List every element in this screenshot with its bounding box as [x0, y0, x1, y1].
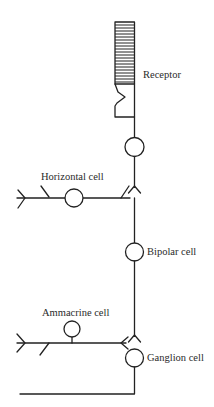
ganglion-cell-label: Ganglion cell — [147, 353, 204, 364]
horizontal-cell-label: Horizontal cell — [41, 172, 104, 183]
receptor-synapse-fork — [129, 186, 141, 193]
receptor-label: Receptor — [143, 70, 181, 81]
ganglion-cell-body — [126, 349, 144, 367]
amacrine-cell — [17, 321, 128, 355]
horizontal-dendrite — [41, 186, 49, 197]
receptor-discs — [115, 25, 135, 82]
horizontal-right-terminal — [121, 186, 129, 198]
diagram-canvas — [0, 0, 214, 407]
horizontal-cell-body — [65, 189, 83, 207]
amacrine-dendrite — [40, 343, 49, 355]
bipolar-cell-label: Bipolar cell — [147, 247, 196, 258]
bipolar-cell-body — [126, 243, 144, 261]
amacrine-cell-label: Ammacrine cell — [42, 308, 109, 319]
receptor-outer-segment — [115, 22, 135, 84]
horizontal-left-fork — [18, 190, 25, 208]
bipolar-synapse-fork — [129, 335, 141, 342]
retina-circuit-diagram: Receptor Horizontal cell Bipolar cell Am… — [0, 0, 214, 407]
receptor-inner-segment — [115, 84, 135, 117]
ganglion-axon — [20, 367, 135, 394]
horizontal-cell — [17, 186, 130, 208]
receptor-cell-body — [125, 138, 144, 157]
amacrine-cell-body — [64, 321, 80, 337]
